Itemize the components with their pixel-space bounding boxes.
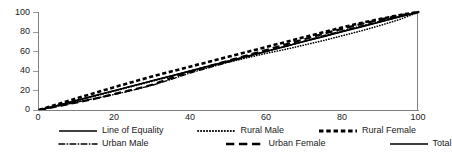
legend-label: Total [433,138,452,149]
legend-label: Rural Male [241,125,285,136]
legend-row: Urban Male Urban Female Total [0,137,437,150]
x-tick-label: 40 [175,113,205,122]
legend-label: Rural Female [362,125,416,136]
legend-item-rural-female[interactable]: Rural Female [318,124,416,137]
legend-swatch-dashed-icon [318,126,358,136]
legend-swatch-solid-icon [389,139,429,149]
legend-item-total[interactable]: Total [389,137,452,150]
chart-legend: Line of Equality Rural Male Rural Female… [0,124,437,153]
legend-swatch-dashdot-icon [58,139,98,149]
x-tick-label: 100 [403,113,433,122]
y-tick-label: 80 [2,27,30,36]
legend-item-urban-male[interactable]: Urban Male [58,137,149,150]
x-tick-label: 20 [99,113,129,122]
legend-item-line-of-equality[interactable]: Line of Equality [58,124,164,137]
x-tick-label: 60 [251,113,281,122]
legend-row: Line of Equality Rural Male Rural Female [0,124,437,137]
series-total [39,12,419,110]
legend-label: Urban Male [102,138,149,149]
plot-lines [39,12,419,110]
plot-frame [38,12,418,110]
y-tick-label: 100 [2,8,30,17]
legend-swatch-longdash-icon [225,139,265,149]
legend-swatch-solid-icon [58,126,98,136]
legend-label: Urban Female [269,138,326,149]
legend-label: Line of Equality [102,125,164,136]
legend-item-urban-female[interactable]: Urban Female [225,137,326,150]
chart-area: 100 80 60 40 20 0 0 20 40 60 [0,0,437,122]
x-tick-label: 80 [327,113,357,122]
y-tick-label: 60 [2,47,30,56]
legend-item-rural-male[interactable]: Rural Male [197,124,285,137]
x-axis-line [38,110,419,111]
legend-swatch-dotted-icon [197,126,237,136]
y-tick-label: 40 [2,66,30,75]
y-tick-label: 20 [2,86,30,95]
x-tick-label: 0 [23,113,53,122]
